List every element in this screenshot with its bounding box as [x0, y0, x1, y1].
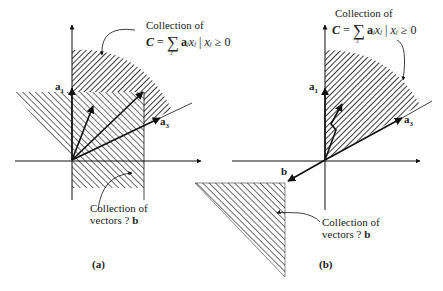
panel-a-label-a3: a3 [160, 115, 169, 130]
panel-b-caption: (b) [319, 258, 332, 270]
panel-b-formula: C = ∑jajxj | xj ≥ 0 [332, 19, 416, 39]
panel-b-label-a1: a1 [309, 80, 318, 95]
panel-b-cone-region [325, 50, 420, 160]
panel-b-bottom-label-line1: Collection of [322, 216, 380, 228]
panel-b-b-region [195, 183, 285, 277]
panel-b-label-a3: a3 [404, 113, 413, 128]
panel-b [195, 25, 432, 277]
panel-b-vector-b [288, 160, 325, 181]
panel-b-label-b: b [281, 165, 287, 177]
panel-a-caption: (a) [92, 258, 105, 270]
panel-a-bottom-label-line2: vectors ? b [90, 214, 138, 226]
panel-b-top-label: Collection of [335, 7, 393, 19]
panel-a-formula: C = ∑jajxj | xj ≥ 0 [146, 31, 230, 51]
panel-b-bottom-label-line2: vectors ? b [322, 228, 370, 240]
panel-a-top-label: Collection of [146, 19, 204, 31]
panel-a-label-a1: a1 [55, 80, 64, 95]
